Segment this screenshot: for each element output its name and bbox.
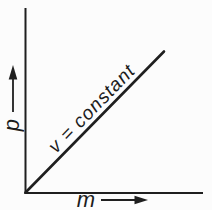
line-label: v = constant <box>44 60 139 157</box>
y-axis-label: p <box>0 119 24 132</box>
up-arrow-icon <box>9 65 18 112</box>
right-arrow-icon <box>101 196 148 205</box>
graph-canvas: p m v = constant <box>0 0 212 210</box>
x-axis-label: m <box>77 187 95 210</box>
proportional-line <box>26 52 165 193</box>
graph-figure: p m v = constant <box>0 0 212 210</box>
